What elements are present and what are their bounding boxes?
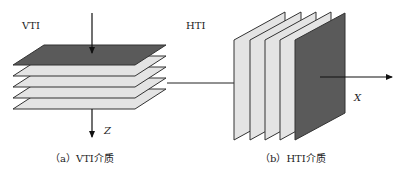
x-axis-label: X	[354, 92, 361, 103]
z-axis-label: Z	[104, 125, 111, 136]
hti-title: HTI	[186, 20, 205, 31]
vti-caption: （a）VTI介质	[50, 150, 114, 165]
vti-medium	[13, 13, 166, 137]
vti-title: VTI	[22, 20, 40, 31]
hti-caption: （b）HTI介质	[260, 150, 326, 165]
hti-medium	[234, 12, 392, 140]
